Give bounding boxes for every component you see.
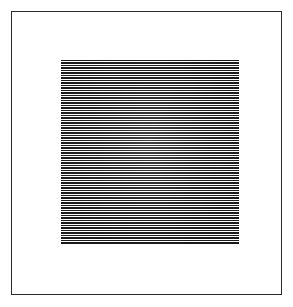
stripe-sheen-overlay [61, 60, 239, 244]
artwork-canvas [0, 0, 293, 307]
horizontal-stripe-square [61, 60, 239, 244]
border-rectangle [11, 11, 282, 295]
paper-field [12, 12, 281, 294]
